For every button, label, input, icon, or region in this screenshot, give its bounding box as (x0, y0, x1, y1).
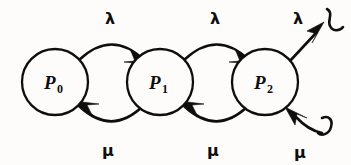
transition-arc-in-p2 (296, 117, 322, 133)
state-label-p2-subscript: 2 (267, 82, 273, 96)
state-diagram-svg: P 0 P 1 P 2 λ λ λ μ μ μ (0, 0, 351, 165)
top-right-squiggle-icon (327, 9, 343, 30)
state-label-p0-base: P (43, 72, 56, 93)
rate-label-mu-p2-p1: μ (207, 141, 219, 160)
state-diagram-canvas: P 0 P 1 P 2 λ λ λ μ μ μ (0, 0, 351, 165)
state-label-p1-subscript: 1 (162, 82, 168, 96)
rate-label-lambda-p0-p1: λ (105, 9, 115, 28)
transition-arc-p2-out (289, 33, 316, 62)
rate-label-mu-in-p2: μ (294, 143, 306, 162)
transition-p1-to-p0 (74, 101, 144, 121)
state-label-p0-subscript: 0 (57, 82, 63, 96)
transition-open-to-p2 (285, 107, 332, 135)
state-label-p2-base: P (253, 72, 266, 93)
rate-label-mu-p1-p0: μ (102, 141, 114, 160)
rate-label-lambda-p2-out: λ (293, 9, 303, 28)
transition-p2-to-p1 (179, 101, 249, 121)
arrowhead-incoming-mu (285, 107, 307, 125)
rate-label-lambda-p1-p2: λ (210, 9, 220, 28)
state-label-p1-base: P (148, 72, 161, 93)
